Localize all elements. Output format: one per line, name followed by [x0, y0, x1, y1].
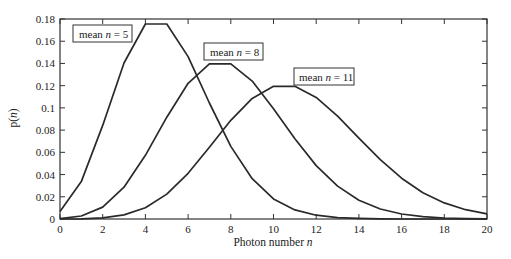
- y-tick-label: 0.14: [36, 57, 56, 69]
- poisson-chart: 0246810121416182000.020.040.060.080.10.1…: [0, 0, 511, 259]
- y-tick-label: 0.18: [36, 13, 56, 25]
- y-tick-label: 0.08: [36, 124, 56, 136]
- y-tick-label: 0.02: [36, 191, 55, 203]
- x-axis-label: Photon number n: [233, 236, 312, 248]
- x-tick-label: 10: [268, 223, 280, 235]
- x-tick-label: 12: [311, 223, 322, 235]
- x-tick-label: 18: [439, 223, 451, 235]
- axis-ticks: 0246810121416182000.020.040.060.080.10.1…: [36, 13, 493, 235]
- x-tick-label: 20: [482, 223, 494, 235]
- y-tick-label: 0.16: [36, 35, 56, 47]
- x-tick-label: 16: [396, 223, 408, 235]
- y-axis-label: p(n): [7, 108, 20, 127]
- legend-mean-5: mean n = 5: [73, 25, 132, 42]
- legend-mean-8: mean n = 8: [204, 43, 263, 60]
- plot-border: [60, 19, 487, 219]
- x-tick-label: 4: [143, 223, 149, 235]
- svg-text:mean n = 8: mean n = 8: [210, 46, 260, 58]
- svg-text:mean n = 11: mean n = 11: [299, 71, 353, 83]
- x-tick-label: 14: [353, 223, 365, 235]
- x-tick-label: 6: [185, 223, 191, 235]
- x-tick-label: 2: [100, 223, 106, 235]
- series-layer: [60, 24, 487, 219]
- y-tick-label: 0: [50, 213, 56, 225]
- y-tick-label: 0.04: [36, 169, 56, 181]
- series-line: [60, 24, 487, 219]
- y-tick-label: 0.1: [41, 102, 55, 114]
- y-tick-label: 0.06: [36, 146, 56, 158]
- plot-frame: [60, 19, 487, 219]
- x-tick-label: 8: [228, 223, 234, 235]
- legend-mean-11: mean n = 11: [294, 68, 354, 85]
- svg-text:mean n = 5: mean n = 5: [79, 28, 129, 40]
- x-tick-label: 0: [57, 223, 63, 235]
- y-tick-label: 0.12: [36, 80, 55, 92]
